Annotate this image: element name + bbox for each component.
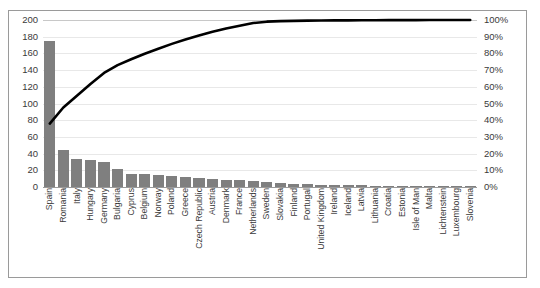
x-axis-category-label: Iceland [341,188,355,276]
x-axis-category-label: Cyprus [124,188,138,276]
x-axis-category-label: Netherlands [246,188,260,276]
x-axis-category-label-text: Isle of Man [412,188,421,231]
x-axis-category-label-text: France [235,188,244,215]
x-axis-category-label-text: Italy [73,188,82,204]
x-axis-category-label-text: Slovakia [276,188,285,221]
y-axis-left-tick: 200 [22,15,38,25]
chart-frame: 020406080100120140160180200 0%10%20%30%4… [8,10,527,278]
y-axis-left-tick: 120 [22,82,38,92]
y-axis-left-tick: 180 [22,32,38,42]
cumulative-line-series [43,20,477,187]
x-axis-category-label-text: Poland [167,188,176,215]
chart-title-strip [0,0,540,9]
x-axis-category-label-text: United Kingdom [317,188,326,250]
y-axis-right-tick: 60% [484,82,503,92]
x-axis-category-label: Hungary [84,188,98,276]
y-axis-right-tick: 70% [484,65,503,75]
x-axis-category-label-text: Spain [45,188,54,210]
x-axis-category-label: Croatia [382,188,396,276]
x-axis-category-label: Poland [165,188,179,276]
x-axis-category-label-text: Finland [290,188,299,217]
x-axis-category-label: Bulgaria [111,188,125,276]
y-axis-right-tick: 20% [484,149,503,159]
x-axis-category-label: Italy [70,188,84,276]
x-axis-category-label: Latvia [355,188,369,276]
x-axis-category-label-text: Latvia [357,188,366,211]
x-axis-category-label: Portugal [301,188,315,276]
x-axis-category-label: Isle of Man [409,188,423,276]
x-axis-category-label: Denmark [219,188,233,276]
x-axis-category-label: Belgium [138,188,152,276]
x-axis-category-label: Luxembourg [450,188,464,276]
x-axis-category-label: United Kingdom [314,188,328,276]
y-axis-left-tick: 80 [27,115,38,125]
x-axis-category-label-text: Netherlands [249,188,258,235]
x-axis-category-label: Norway [152,188,166,276]
x-axis-category-label: Slovenia [463,188,477,276]
x-axis-category-labels: SpainRomaniaItalyHungaryGermanyBulgariaC… [43,188,477,276]
x-axis-category-label-text: Iceland [344,188,353,216]
x-axis-category-label-text: Portugal [303,188,312,220]
x-axis-category-label: Slovakia [274,188,288,276]
y-axis-right-tick: 90% [484,32,503,42]
x-axis-category-label-text: Slovenia [466,188,475,221]
x-axis-category-label: Greece [179,188,193,276]
x-axis-category-label-text: Belgium [140,188,149,219]
x-axis-category-label: Estonia [396,188,410,276]
y-axis-right: 0%10%20%30%40%50%60%70%80%90%100% [479,20,527,187]
y-axis-left-tick: 140 [22,65,38,75]
x-axis-category-label-text: Denmark [222,188,231,223]
x-axis-category-label: Finland [287,188,301,276]
x-axis-category-label: Malta [423,188,437,276]
x-axis-category-label-text: Croatia [384,188,393,216]
x-axis-category-label: Lithuania [369,188,383,276]
x-axis-category-label-text: Malta [425,188,434,209]
y-axis-left-tick: 40 [27,149,38,159]
x-axis-category-label: Germany [97,188,111,276]
plot-area [43,20,477,187]
x-axis-category-label-text: Lithuania [371,188,380,223]
y-axis-left-tick: 20 [27,166,38,176]
x-axis-category-label: Spain [43,188,57,276]
x-axis-category-label: Romania [57,188,71,276]
x-axis-category-label: France [233,188,247,276]
x-axis-category-label-text: Czech Republic [195,188,204,249]
x-axis-category-label-text: Bulgaria [113,188,122,220]
y-axis-right-tick: 80% [484,49,503,59]
x-axis-category-label-text: Germany [100,188,109,224]
y-axis-left-tick: 60 [27,132,38,142]
y-axis-left-tick: 0 [33,182,38,192]
x-axis-category-label-text: Luxembourg [452,188,461,236]
x-axis-category-label-text: Greece [181,188,190,217]
x-axis-category-label: Czech Republic [192,188,206,276]
y-axis-left-tick: 160 [22,49,38,59]
x-axis-category-label-text: Lichtenstein [439,188,448,234]
x-axis-category-label-text: Estonia [398,188,407,217]
x-axis-category-label-text: Cyprus [127,188,136,216]
y-axis-right-tick: 100% [484,15,508,25]
x-axis-category-label-text: Sweden [262,188,271,219]
x-axis-category-label: Ireland [328,188,342,276]
y-axis-right-tick: 10% [484,166,503,176]
x-axis-category-label: Austria [206,188,220,276]
x-axis-category-label-text: Ireland [330,188,339,215]
y-axis-right-tick: 30% [484,132,503,142]
x-axis-category-label-text: Norway [154,188,163,217]
y-axis-left: 020406080100120140160180200 [9,20,42,187]
x-axis-category-label-text: Hungary [86,188,95,221]
x-axis-category-label: Sweden [260,188,274,276]
x-axis-category-label: Lichtenstein [436,188,450,276]
x-axis-category-label-text: Austria [208,188,217,215]
y-axis-right-tick: 50% [484,99,503,109]
y-axis-right-tick: 0% [484,182,498,192]
y-axis-right-tick: 40% [484,115,503,125]
y-axis-left-tick: 100 [22,99,38,109]
x-axis-category-label-text: Romania [59,188,68,223]
